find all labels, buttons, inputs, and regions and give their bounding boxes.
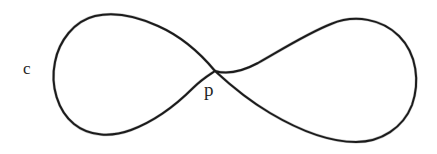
curve-left-lobe-shadow xyxy=(54,14,215,134)
curve-left-lobe xyxy=(54,14,215,134)
node-label-p: p xyxy=(204,80,214,99)
curve-right-lobe xyxy=(215,19,416,142)
curve-right-lobe-shadow xyxy=(215,19,416,142)
figure-canvas: c p xyxy=(0,0,437,154)
curve-label-c: c xyxy=(23,60,31,77)
curve-drawing xyxy=(0,0,437,154)
